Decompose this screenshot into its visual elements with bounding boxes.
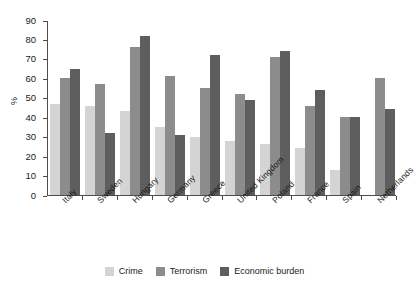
bar <box>305 106 315 195</box>
bar-group <box>225 21 255 195</box>
bar-group <box>50 21 80 195</box>
bar <box>225 141 235 195</box>
bar <box>130 47 140 195</box>
bar-group <box>155 21 185 195</box>
y-tick-label: 80 <box>14 34 36 45</box>
bar-group <box>190 21 220 195</box>
bar <box>165 76 175 195</box>
legend-swatch-icon <box>220 267 229 276</box>
bar <box>295 148 305 195</box>
y-tick-label: 40 <box>14 112 36 123</box>
bar <box>340 117 350 195</box>
y-tick: 10 <box>43 176 47 177</box>
bar <box>190 137 200 195</box>
y-tick-label: 10 <box>14 170 36 181</box>
bar-group <box>365 21 395 195</box>
bar <box>375 78 385 195</box>
legend-item[interactable]: Crime <box>105 266 143 276</box>
bar <box>70 69 80 195</box>
y-tick: 60 <box>43 79 47 80</box>
y-tick: 0 <box>43 196 47 197</box>
bar-group <box>85 21 115 195</box>
bar <box>200 88 210 195</box>
bar <box>210 55 220 195</box>
bar <box>95 84 105 195</box>
bar <box>50 104 60 195</box>
chart-legend: CrimeTerrorismEconomic burden <box>0 266 409 276</box>
x-tick <box>396 196 397 200</box>
plot-area: 0102030405060708090 <box>47 21 396 196</box>
y-tick: 50 <box>43 98 47 99</box>
y-tick: 40 <box>43 118 47 119</box>
bar <box>235 94 245 195</box>
legend-label: Crime <box>119 266 143 276</box>
bar <box>140 36 150 195</box>
y-tick: 80 <box>43 40 47 41</box>
bar <box>85 106 95 195</box>
y-tick-label: 60 <box>14 73 36 84</box>
y-tick-label: 70 <box>14 53 36 64</box>
y-tick: 30 <box>43 137 47 138</box>
y-tick: 70 <box>43 59 47 60</box>
legend-label: Terrorism <box>170 266 208 276</box>
bars-layer <box>48 21 396 195</box>
y-tick-label: 50 <box>14 92 36 103</box>
bar-group <box>330 21 360 195</box>
y-tick-label: 30 <box>14 131 36 142</box>
bar <box>280 51 290 195</box>
legend-item[interactable]: Terrorism <box>156 266 208 276</box>
y-tick: 20 <box>43 157 47 158</box>
legend-swatch-icon <box>105 267 114 276</box>
bar <box>60 78 70 195</box>
bar-group <box>295 21 325 195</box>
y-tick-label: 0 <box>14 190 36 201</box>
bar <box>330 170 340 195</box>
legend-item[interactable]: Economic burden <box>220 266 304 276</box>
legend-label: Economic burden <box>234 266 304 276</box>
y-tick-label: 90 <box>14 15 36 26</box>
legend-swatch-icon <box>156 267 165 276</box>
y-tick-label: 20 <box>14 151 36 162</box>
bar-group <box>120 21 150 195</box>
y-tick: 90 <box>43 21 47 22</box>
x-axis-labels: ItalySwedenHungaryGermanyGreeceUnited Ki… <box>47 198 396 258</box>
